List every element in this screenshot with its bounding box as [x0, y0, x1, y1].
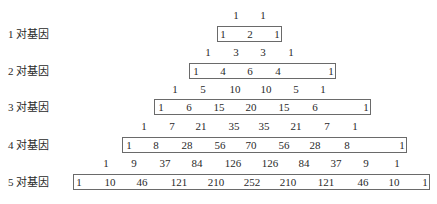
value: 6 [312, 101, 318, 113]
value: 10 [230, 83, 241, 95]
value: 1 [205, 46, 211, 58]
value: 1 [363, 101, 369, 113]
value: 7 [324, 120, 330, 132]
intermediate-row-0: 1 1 [0, 8, 437, 22]
boxed-row-0: 1 2 1 [217, 26, 282, 42]
value: 121 [318, 176, 335, 188]
value: 28 [182, 139, 193, 151]
value: 121 [171, 176, 188, 188]
boxed-row-2: 1 6 15 20 15 6 1 [154, 99, 371, 115]
boxed-row-4: 1 10 46 121 210 252 210 121 46 10 1 [73, 174, 430, 190]
value: 21 [291, 120, 302, 132]
value: 7 [169, 120, 175, 132]
value: 28 [310, 139, 321, 151]
label-2-gene-pairs: 2 对基因 [8, 64, 49, 78]
value: 10 [261, 83, 272, 95]
value: 1 [158, 101, 164, 113]
intermediate-row-3: 1 7 21 35 35 21 7 1 [0, 119, 437, 133]
value: 10 [105, 176, 116, 188]
value: 126 [262, 157, 279, 169]
value: 21 [196, 120, 207, 132]
value: 1 [422, 176, 428, 188]
value: 252 [244, 176, 261, 188]
label-3-gene-pairs: 3 对基因 [8, 100, 49, 114]
value: 6 [247, 65, 253, 77]
value: 20 [246, 101, 257, 113]
value: 15 [279, 101, 290, 113]
value: 37 [331, 157, 342, 169]
value: 210 [208, 176, 225, 188]
value: 1 [103, 157, 109, 169]
value: 3 [233, 46, 239, 58]
value: 126 [225, 157, 242, 169]
intermediate-row-2: 1 5 10 10 5 1 [0, 82, 437, 96]
value: 1 [352, 120, 358, 132]
value: 56 [279, 139, 290, 151]
value: 46 [137, 176, 148, 188]
value: 5 [293, 83, 299, 95]
value: 10 [389, 176, 400, 188]
value: 1 [233, 9, 239, 21]
value: 1 [260, 9, 266, 21]
value: 35 [229, 120, 240, 132]
value: 210 [280, 176, 297, 188]
label-1-gene-pair: 1 对基因 [8, 27, 49, 41]
value: 8 [153, 139, 159, 151]
value: 70 [246, 139, 257, 151]
value: 46 [358, 176, 369, 188]
label-5-gene-pairs: 5 对基因 [8, 175, 49, 189]
value: 3 [260, 46, 266, 58]
value: 56 [215, 139, 226, 151]
value: 5 [200, 83, 206, 95]
boxed-row-3: 1 8 28 56 70 56 28 8 1 [122, 137, 407, 153]
value: 84 [192, 157, 203, 169]
intermediate-row-1: 1 3 3 1 [0, 45, 437, 59]
value: 1 [220, 28, 226, 40]
value: 1 [172, 83, 178, 95]
value: 35 [259, 120, 270, 132]
value: 37 [160, 157, 171, 169]
value: 84 [299, 157, 310, 169]
intermediate-row-4: 1 9 37 84 126 126 84 37 9 1 [0, 156, 437, 170]
value: 1 [394, 157, 400, 169]
value: 8 [344, 139, 350, 151]
value: 9 [363, 157, 369, 169]
boxed-row-1: 1 4 6 4 1 [189, 63, 336, 79]
value: 1 [399, 139, 405, 151]
value: 9 [131, 157, 137, 169]
value: 1 [320, 83, 326, 95]
label-4-gene-pairs: 4 对基因 [8, 138, 49, 152]
value: 2 [247, 28, 253, 40]
value: 4 [275, 65, 281, 77]
value: 1 [193, 65, 199, 77]
value: 6 [186, 101, 192, 113]
value: 1 [126, 139, 132, 151]
value: 1 [328, 65, 334, 77]
value: 4 [220, 65, 226, 77]
value: 1 [76, 176, 82, 188]
value: 1 [274, 28, 280, 40]
value: 15 [214, 101, 225, 113]
value: 1 [288, 46, 294, 58]
value: 1 [141, 120, 147, 132]
